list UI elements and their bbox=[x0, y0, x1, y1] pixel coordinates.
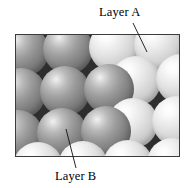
packing-frame bbox=[15, 34, 180, 157]
sphere-layer-a bbox=[147, 138, 180, 157]
label-layer-a: Layer A bbox=[99, 6, 140, 19]
label-layer-b: Layer B bbox=[55, 170, 96, 183]
figure-close-packed-spheres: Layer A Layer B bbox=[0, 0, 193, 188]
sphere-packing-layer-stack bbox=[16, 35, 179, 156]
